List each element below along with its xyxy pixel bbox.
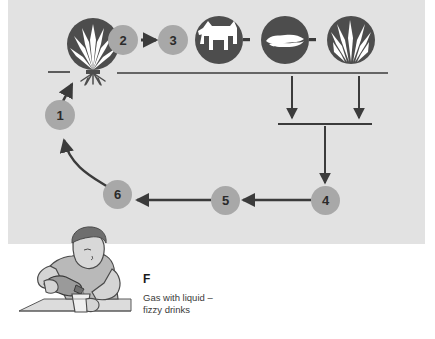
figure-caption: F Gas with liquid – fizzy drinks (143, 272, 293, 316)
step-label-1: 1 (56, 108, 63, 121)
step-token-4[interactable]: 4 (311, 186, 340, 215)
step-label-5: 5 (222, 194, 229, 207)
step-label-4: 4 (322, 194, 329, 207)
step-label-3: 3 (169, 33, 176, 46)
step-label-6: 6 (114, 188, 121, 201)
step-token-6[interactable]: 6 (103, 180, 132, 209)
step-token-3[interactable]: 3 (158, 25, 188, 55)
step-token-2[interactable]: 2 (108, 25, 138, 55)
step-token-1[interactable]: 1 (45, 100, 75, 130)
caption-line-1: Gas with liquid – (143, 292, 293, 304)
figure-root: 1 2 3 4 5 6 F Gas with liquid – fizzy dr… (0, 0, 435, 339)
figure-label: F (143, 272, 293, 286)
caption-line-2: fizzy drinks (143, 304, 293, 316)
step-label-2: 2 (119, 33, 126, 46)
step-token-5[interactable]: 5 (211, 186, 240, 215)
